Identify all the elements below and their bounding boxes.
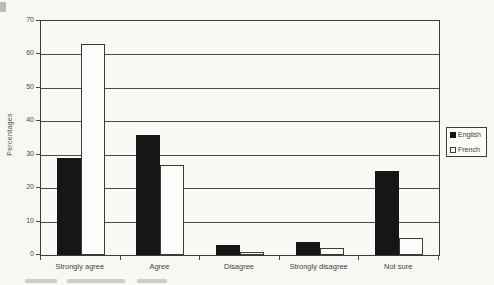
legend: English French (446, 127, 487, 157)
bar-english-strongly-agree (57, 158, 81, 255)
x-category-label-agree: Agree (120, 262, 200, 271)
x-tick-mark (358, 256, 359, 260)
bar-english-disagree (216, 245, 240, 255)
y-tick-label-10: 10 (0, 217, 34, 225)
y-tick-label-40: 40 (0, 116, 34, 124)
scan-artifact (0, 2, 6, 12)
x-category-label-strongly-disagree: Strongly disagree (279, 262, 359, 271)
legend-label-english: English (458, 131, 481, 139)
x-tick-mark (40, 256, 41, 260)
y-tick-label-30: 30 (0, 150, 34, 158)
bar-french-strongly-disagree (320, 248, 344, 255)
x-category-label-not-sure: Not sure (358, 262, 438, 271)
x-category-label-strongly-agree: Strongly agree (40, 262, 120, 271)
x-tick-mark (438, 256, 439, 260)
y-tick-label-50: 50 (0, 83, 34, 91)
bar-french-strongly-agree (81, 44, 105, 255)
bar-english-strongly-disagree (296, 242, 320, 255)
cutoff-caption-fragment (67, 279, 125, 283)
cutoff-caption (25, 278, 185, 284)
bar-french-disagree (240, 252, 264, 255)
cutoff-caption-fragment (25, 279, 57, 283)
english-series-swatch-icon (450, 132, 456, 138)
y-axis-title: Percentages (6, 85, 13, 185)
bar-french-not-sure (399, 238, 423, 255)
legend-label-french: French (458, 146, 480, 154)
bar-english-agree (136, 135, 160, 255)
bar-french-agree (160, 165, 184, 255)
legend-item-french: French (450, 146, 484, 154)
plot-area (40, 20, 440, 256)
x-tick-mark (120, 256, 121, 260)
x-tick-mark (279, 256, 280, 260)
x-tick-mark (199, 256, 200, 260)
scanned-survey-figure: Percentages 010203040506070 Strongly agr… (0, 0, 494, 285)
legend-item-english: English (450, 131, 484, 139)
x-category-label-disagree: Disagree (199, 262, 279, 271)
y-tick-label-20: 20 (0, 183, 34, 191)
y-tick-label-60: 60 (0, 49, 34, 57)
cutoff-caption-fragment (137, 279, 167, 283)
y-tick-label-0: 0 (0, 250, 34, 258)
french-series-swatch-icon (450, 147, 456, 153)
y-tick-label-70: 70 (0, 16, 34, 24)
bar-english-not-sure (375, 171, 399, 255)
